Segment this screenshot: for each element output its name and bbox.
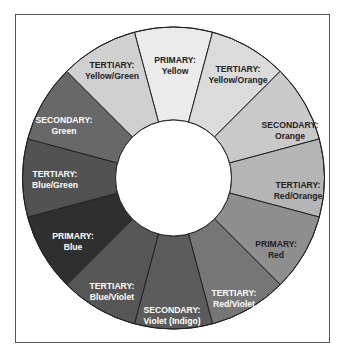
segment-label: SECONDARY:Violet (Indigo) <box>143 305 200 326</box>
segment-category: TERTIARY: <box>90 60 135 70</box>
segment-color-name: Yellow/Green <box>85 71 139 81</box>
segment-color-name: Blue <box>64 242 83 252</box>
segment-label: TERTIARY:Yellow/Green <box>85 60 139 81</box>
color-wheel: PRIMARY:YellowTERTIARY:Yellow/OrangeSECO… <box>0 0 346 355</box>
segment-color-name: Green <box>52 126 77 136</box>
segment-category: SECONDARY: <box>36 115 93 125</box>
segment-color-name: Yellow/Orange <box>208 75 267 85</box>
segment-category: PRIMARY: <box>154 55 196 65</box>
segment-color-name: Yellow <box>162 66 189 76</box>
segment-color-name: Violet (Indigo) <box>143 316 200 326</box>
segment-label: TERTIARY:Red/Orange <box>274 180 323 201</box>
segment-category: TERTIARY: <box>276 180 321 190</box>
segment-color-name: Blue/Violet <box>90 292 134 302</box>
segment-color-name: Orange <box>275 131 305 141</box>
segment-label: TERTIARY:Blue/Violet <box>90 281 135 302</box>
segment-category: SECONDARY: <box>262 120 319 130</box>
segment-category: PRIMARY: <box>52 231 94 241</box>
segment-label: TERTIARY:Blue/Green <box>32 169 78 190</box>
segment-category: TERTIARY: <box>33 169 78 179</box>
segment-color-name: Blue/Green <box>32 180 78 190</box>
segment-color-name: Red/Violet <box>213 299 255 309</box>
segment-color-name: Red/Orange <box>274 191 323 201</box>
segment-category: TERTIARY: <box>212 288 257 298</box>
wheel-center-hole <box>116 120 232 236</box>
segment-category: SECONDARY: <box>144 305 201 315</box>
segment-category: TERTIARY: <box>90 281 135 291</box>
segment-label: TERTIARY:Yellow/Orange <box>208 64 267 85</box>
segment-category: TERTIARY: <box>216 64 261 74</box>
segment-category: PRIMARY: <box>255 239 297 249</box>
segment-label: TERTIARY:Red/Violet <box>212 288 257 309</box>
segment-color-name: Red <box>268 250 284 260</box>
